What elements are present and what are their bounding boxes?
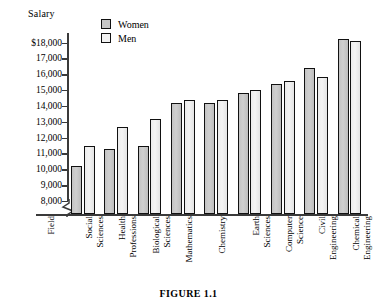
y-axis-tick-mark xyxy=(62,185,68,186)
y-axis-tick-mark xyxy=(62,74,68,75)
bar-women xyxy=(238,93,249,214)
plot-area xyxy=(68,33,368,214)
x-axis-title: Field xyxy=(46,216,56,276)
bar-group xyxy=(104,33,133,214)
y-axis-tick-label: 14,000 xyxy=(36,101,62,111)
y-axis-tick-mark xyxy=(62,169,68,170)
y-axis-tick-label: 16,000 xyxy=(36,69,62,79)
bar-men xyxy=(350,41,361,214)
bar-women xyxy=(104,149,115,214)
bar-group xyxy=(171,33,200,214)
y-axis-tick-mark xyxy=(62,106,68,107)
x-axis-category-label: Chemical Engineering xyxy=(351,216,372,290)
y-axis-tick-label: 9,000 xyxy=(41,180,62,190)
x-axis-category-labels: Social SciencesHealth ProfessionsBiologi… xyxy=(68,216,368,296)
bar-men xyxy=(84,146,95,214)
bar-men xyxy=(217,100,228,214)
y-axis-tick-label: $18,000 xyxy=(31,38,62,48)
y-axis-tick-label: 8,000 xyxy=(41,196,62,206)
bar-women xyxy=(271,84,282,214)
x-axis-category-label: Social Sciences xyxy=(84,216,105,290)
bar-women xyxy=(338,39,349,214)
bar-women xyxy=(138,146,149,214)
y-axis-tick-label: 10,000 xyxy=(36,164,62,174)
x-axis-category-label: Health Professions xyxy=(117,216,138,290)
bar-group xyxy=(338,33,367,214)
bar-group xyxy=(238,33,267,214)
bar-group xyxy=(204,33,233,214)
bar-group xyxy=(271,33,300,214)
y-axis-tick-label: 17,000 xyxy=(36,53,62,63)
y-axis-tick-mark xyxy=(62,58,68,59)
bar-group xyxy=(138,33,167,214)
bar-men xyxy=(317,77,328,214)
y-axis-tick-label: 13,000 xyxy=(36,117,62,127)
x-axis-category-label: Mathematics xyxy=(184,216,195,290)
legend-label-women: Women xyxy=(118,19,149,30)
bar-group xyxy=(304,33,333,214)
bar-men xyxy=(150,119,161,214)
bar-men xyxy=(117,127,128,214)
y-axis-tick-mark xyxy=(62,138,68,139)
figure-caption: FIGURE 1.1 xyxy=(0,288,377,299)
y-axis-tick-mark xyxy=(62,153,68,154)
x-axis-category-label: Biological Sciences xyxy=(151,216,172,290)
bar-women xyxy=(171,103,182,214)
y-axis-tick-mark xyxy=(62,90,68,91)
bar-men xyxy=(184,100,195,214)
y-axis-tick-mark xyxy=(62,201,68,202)
y-axis-tick-mark xyxy=(62,122,68,123)
x-axis-category-label: Chemistry xyxy=(217,216,228,290)
x-axis-category-label: Civil Engineering xyxy=(317,216,338,290)
y-axis-tick-label: 11,000 xyxy=(36,148,62,158)
y-axis-tick-label: 15,000 xyxy=(36,85,62,95)
x-axis-category-label: Earth Sciences xyxy=(251,216,272,290)
legend-item-women: Women xyxy=(101,17,149,31)
x-axis-category-label: Computer Science xyxy=(284,216,305,290)
y-axis-tick-mark xyxy=(62,43,68,44)
figure-container: Salary $18,00017,00016,00015,00014,00013… xyxy=(0,0,377,306)
legend-swatch-icon xyxy=(101,19,111,29)
bar-men xyxy=(250,90,261,214)
bar-women xyxy=(71,166,82,214)
bar-women xyxy=(304,68,315,214)
bar-group xyxy=(71,33,100,214)
bar-women xyxy=(204,103,215,214)
bar-men xyxy=(284,81,295,214)
y-axis-tick-label: 12,000 xyxy=(36,133,62,143)
